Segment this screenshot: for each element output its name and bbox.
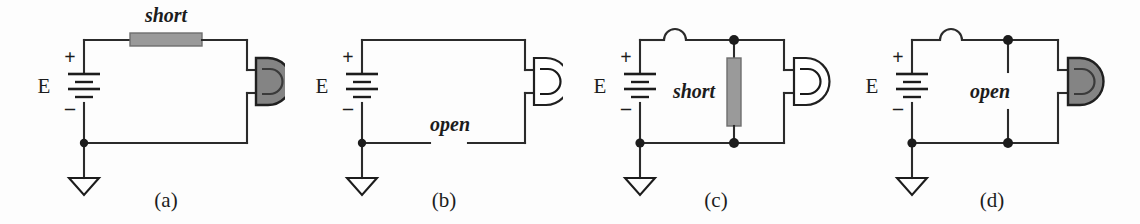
polarity-minus-a: – [64, 97, 76, 119]
lamp-c[interactable] [794, 58, 829, 105]
source-label-c: E [594, 74, 607, 98]
node-dot-a-1 [80, 139, 88, 147]
polarity-plus-c: + [620, 46, 631, 68]
source-label-d: E [866, 74, 879, 98]
polarity-minus-b: – [342, 97, 354, 119]
polarity-plus-d: + [892, 46, 903, 68]
fault-label-b: open [430, 113, 470, 136]
circuit-b: E + – open (b) [278, 0, 563, 224]
earth-ground-icon-a [69, 178, 99, 195]
source-label-b: E [316, 74, 329, 98]
node-dot-d-3 [1003, 138, 1013, 148]
wire-bump-icon-d [940, 29, 962, 40]
node-dot-c-2 [729, 35, 739, 45]
caption-c: (c) [704, 188, 727, 212]
circuit-a: E + – short (a) [0, 0, 285, 224]
caption-b: (b) [432, 188, 457, 212]
node-dot-d-1 [907, 138, 916, 147]
source-label-a: E [38, 74, 51, 98]
circuit-c: E + – short (c) [556, 0, 841, 224]
polarity-plus-a: + [64, 46, 75, 68]
node-dot-c-3 [729, 138, 739, 148]
caption-a: (a) [154, 188, 177, 212]
earth-ground-icon-c [625, 178, 655, 195]
earth-ground-icon-b [347, 178, 377, 195]
fault-label-a: short [144, 4, 189, 26]
wire-bump-icon-c [664, 29, 686, 40]
lamp-body-c [794, 58, 829, 105]
shorted-resistor-block-a [130, 33, 202, 46]
circuit-figure: E + – short (a) [0, 0, 1140, 224]
fault-label-d: open [970, 80, 1010, 103]
earth-ground-icon-d [897, 178, 927, 195]
circuit-d: E + – open (d) [840, 0, 1125, 224]
lamp-d[interactable] [1068, 58, 1103, 105]
polarity-minus-c: – [620, 97, 632, 119]
polarity-minus-d: – [892, 97, 904, 119]
node-dot-c-1 [635, 138, 644, 147]
shorted-resistor-block-c [727, 58, 741, 126]
node-dot-b-1 [358, 139, 366, 147]
node-dot-d-2 [1003, 35, 1013, 45]
caption-d: (d) [980, 188, 1005, 212]
fault-label-c: short [672, 80, 717, 102]
lamp-body-d [1068, 58, 1103, 105]
polarity-plus-b: + [342, 46, 353, 68]
